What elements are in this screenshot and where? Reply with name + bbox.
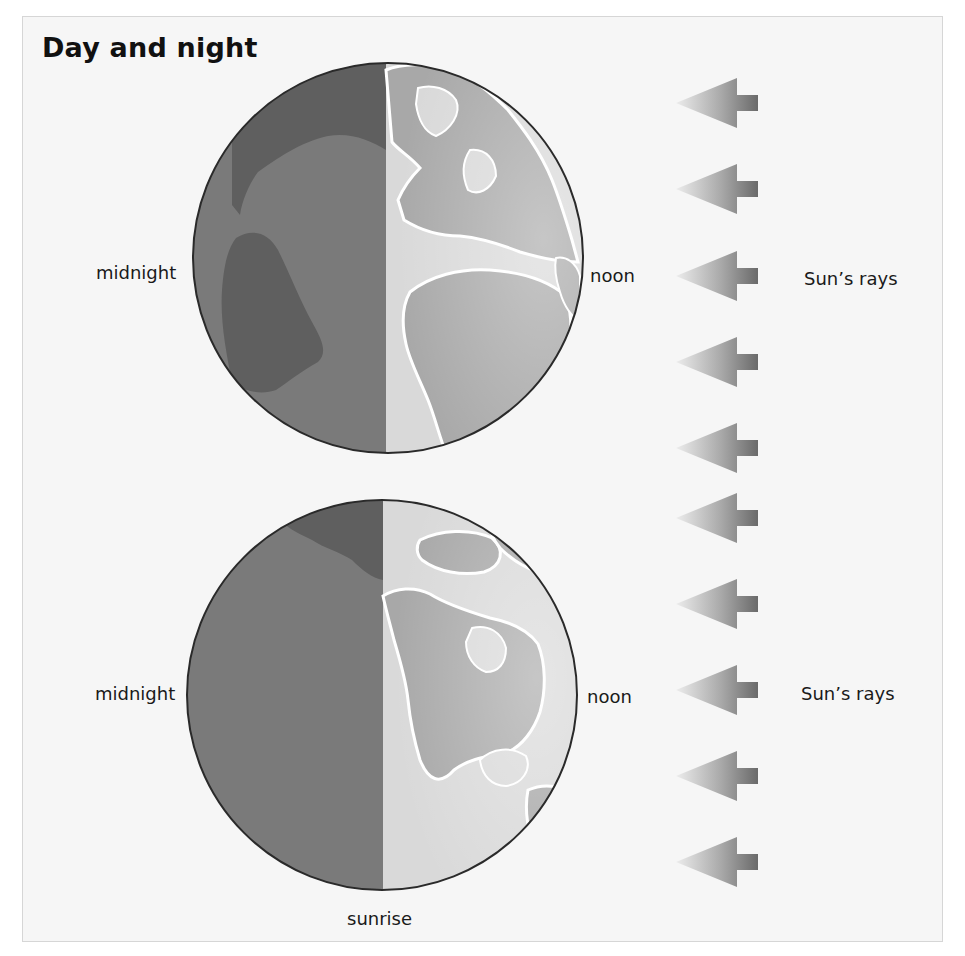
sun-rays-label-bottom: Sun’s rays	[801, 683, 895, 704]
day-highlight	[383, 498, 588, 898]
arrow-left-icon	[676, 493, 758, 543]
globe2-label-midnight: midnight	[95, 683, 175, 704]
globe-europe-africa	[190, 60, 596, 460]
arrow-left-icon	[676, 251, 758, 301]
arrow-left-icon	[676, 579, 758, 629]
day-highlight	[386, 60, 596, 460]
arrow-left-icon	[676, 78, 758, 128]
globe2-label-sunrise: sunrise	[347, 908, 412, 929]
arrow-left-icon	[676, 665, 758, 715]
arrow-left-icon	[676, 423, 758, 473]
sun-rays-label-top: Sun’s rays	[804, 268, 898, 289]
globe1-label-noon: noon	[590, 265, 635, 286]
arrow-left-icon	[676, 751, 758, 801]
globe2-label-noon: noon	[587, 686, 632, 707]
sun-rays-arrows	[676, 78, 758, 887]
arrow-left-icon	[676, 337, 758, 387]
diagram-artwork	[0, 0, 965, 956]
globe1-label-midnight: midnight	[96, 262, 176, 283]
globe-north-america	[185, 498, 588, 898]
arrow-left-icon	[676, 837, 758, 887]
arrow-left-icon	[676, 164, 758, 214]
